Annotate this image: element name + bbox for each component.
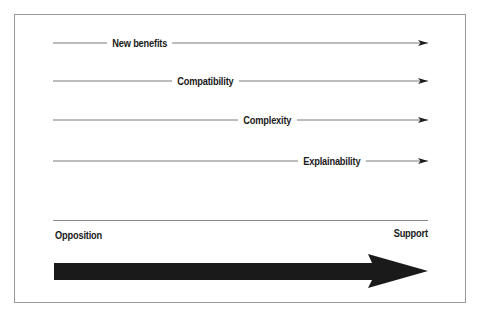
factor-label-explainability: Explainability (298, 154, 366, 168)
factor-label-new-benefits: New benefits (107, 36, 172, 50)
opposition-to-support-arrow-icon (54, 254, 428, 288)
factor-label-compatibility: Compatibility (172, 74, 239, 88)
support-label: Support (394, 226, 428, 240)
factor-lines (0, 0, 481, 317)
axis-separator (53, 220, 428, 221)
opposition-label: Opposition (55, 228, 102, 242)
factor-label-complexity: Complexity (238, 113, 297, 127)
